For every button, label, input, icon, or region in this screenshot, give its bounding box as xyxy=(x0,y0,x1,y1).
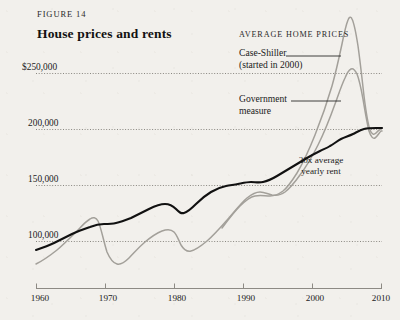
legend-heading: AVERAGE HOME PRICES xyxy=(239,30,349,39)
figure-container: FIGURE 14 House prices and rents xyxy=(0,0,400,320)
legend-government-line1: Government xyxy=(239,93,287,105)
x-tick-label-1990: 1990 xyxy=(237,293,255,303)
legend-item-case-shiller: Case-Shiller (started in 2000) xyxy=(239,47,302,70)
legend-government-line2: measure xyxy=(239,105,287,117)
legend-item-government-measure: Government measure xyxy=(239,93,287,116)
annotation-rent-line2: yearly rent xyxy=(299,166,344,177)
annotation-rent-line1: 20x average xyxy=(299,155,344,166)
x-tick-label-1960: 1960 xyxy=(31,293,49,303)
x-tick-label-1980: 1980 xyxy=(168,293,186,303)
x-tick-label-1970: 1970 xyxy=(99,293,117,303)
series-rent xyxy=(36,128,382,250)
x-axis xyxy=(36,284,382,289)
x-tick-label-2000: 2000 xyxy=(306,293,324,303)
y-tick-label-150000: 150,000 xyxy=(28,174,58,184)
y-tick-label-200000: 200,000 xyxy=(28,118,58,128)
legend-case-shiller-line1: Case-Shiller xyxy=(239,47,302,59)
legend-case-shiller-line2: (started in 2000) xyxy=(239,59,302,71)
y-tick-label-100000: 100,000 xyxy=(28,230,58,240)
y-tick-label-250000: $250,000 xyxy=(22,62,57,72)
x-tick-label-2010: 2010 xyxy=(372,293,390,303)
annotation-rent: 20x average yearly rent xyxy=(299,155,344,177)
